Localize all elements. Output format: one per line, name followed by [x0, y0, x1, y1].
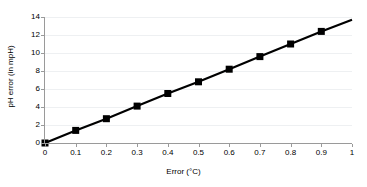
x-axis-tick-mark [291, 144, 292, 147]
x-axis-tick-mark [45, 144, 46, 147]
x-axis-tick-mark [352, 144, 353, 147]
x-axis-tick-label: 0.7 [254, 148, 265, 157]
x-axis-tick-mark [199, 144, 200, 147]
x-axis-tick-label: 0.6 [224, 148, 235, 157]
x-axis-tick-label: 0.8 [285, 148, 296, 157]
y-axis-tick-mark [41, 125, 44, 126]
x-axis-tick-mark [260, 144, 261, 147]
x-axis-tick-mark [168, 144, 169, 147]
x-axis-tick-label: 0.3 [132, 148, 143, 157]
y-axis-title-text: pH error (in mpH) [6, 45, 15, 107]
x-axis-tick-label: 0.2 [101, 148, 112, 157]
y-axis-title: pH error (in mpH) [2, 0, 18, 152]
x-axis-tick-label: 0.4 [162, 148, 173, 157]
y-axis-tick-mark [41, 143, 44, 144]
x-axis-tick-label: 0.1 [70, 148, 81, 157]
x-axis-tick-label: 0.5 [193, 148, 204, 157]
y-axis-tick-mark [41, 71, 44, 72]
x-axis-tick-label: 0.9 [316, 148, 327, 157]
x-axis-tick-label: 0 [43, 148, 47, 157]
x-axis-tick-labels: 00.10.20.30.40.50.60.70.80.91 [0, 0, 367, 187]
chart-container: 02468101214 00.10.20.30.40.50.60.70.80.9… [0, 0, 367, 187]
x-axis-tick-mark [137, 144, 138, 147]
y-axis-tick-mark [41, 53, 44, 54]
y-axis-tick-mark [41, 35, 44, 36]
y-axis-tick-mark [41, 17, 44, 18]
x-axis-title: Error (°C) [0, 167, 367, 176]
y-axis-tick-mark [41, 89, 44, 90]
x-axis-tick-mark [229, 144, 230, 147]
x-axis-tick-mark [106, 144, 107, 147]
x-axis-tick-mark [321, 144, 322, 147]
x-axis-tick-mark [76, 144, 77, 147]
x-axis-tick-label: 1 [350, 148, 354, 157]
y-axis-tick-mark [41, 107, 44, 108]
